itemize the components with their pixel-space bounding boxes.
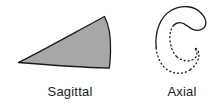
sagittal-wedge-shape xyxy=(0,0,140,84)
sagittal-wedge-path xyxy=(19,17,111,69)
axial-hook-solid-path xyxy=(174,14,206,31)
axial-inner-dotted-path xyxy=(170,26,177,58)
panel-sagittal: Sagittal xyxy=(0,0,140,109)
anatomical-plane-figure: Sagittal Axial xyxy=(0,0,224,109)
axial-outer-solid-path xyxy=(156,7,202,48)
axial-c-shape xyxy=(140,0,224,84)
caption-axial: Axial xyxy=(140,84,224,99)
axial-inner-lower-dotted-path xyxy=(177,49,197,61)
caption-sagittal: Sagittal xyxy=(0,84,140,99)
axial-bottom-right-dotted-path xyxy=(191,48,199,69)
panel-axial: Axial xyxy=(140,0,224,109)
